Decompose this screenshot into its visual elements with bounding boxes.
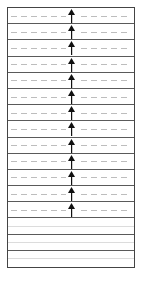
strip-row-with-arrow	[8, 73, 134, 89]
strip-row-with-arrow	[8, 170, 134, 186]
strip-row-with-arrow	[8, 40, 134, 56]
arrow-up-icon	[68, 74, 75, 88]
arrow-up-icon	[68, 90, 75, 104]
faint-centerline	[8, 226, 134, 227]
arrow-up-icon	[68, 139, 75, 153]
strip-row-with-arrow	[8, 121, 134, 137]
arrow-up-icon	[68, 203, 75, 217]
strip-row-with-arrow	[8, 154, 134, 170]
strip-stack-panel	[7, 7, 135, 268]
strip-row-with-arrow	[8, 57, 134, 73]
arrow-up-icon	[68, 9, 75, 23]
strip-row-with-arrow	[8, 24, 134, 40]
strip-row-empty	[8, 251, 134, 267]
strip-row-with-arrow	[8, 186, 134, 202]
strip-row-with-arrow	[8, 89, 134, 105]
strip-row-with-arrow	[8, 8, 134, 24]
arrow-up-icon	[68, 122, 75, 136]
arrow-up-icon	[68, 106, 75, 120]
arrow-up-icon	[68, 171, 75, 185]
faint-centerline	[8, 242, 134, 243]
strip-row-empty	[8, 235, 134, 251]
strip-row-with-arrow	[8, 105, 134, 121]
arrow-up-icon	[68, 155, 75, 169]
strip-row-with-arrow	[8, 138, 134, 154]
strip-row-with-arrow	[8, 202, 134, 218]
arrow-up-icon	[68, 25, 75, 39]
arrow-up-icon	[68, 187, 75, 201]
strip-row-empty	[8, 218, 134, 234]
arrow-up-icon	[68, 58, 75, 72]
faint-centerline	[8, 258, 134, 259]
arrow-up-icon	[68, 41, 75, 55]
